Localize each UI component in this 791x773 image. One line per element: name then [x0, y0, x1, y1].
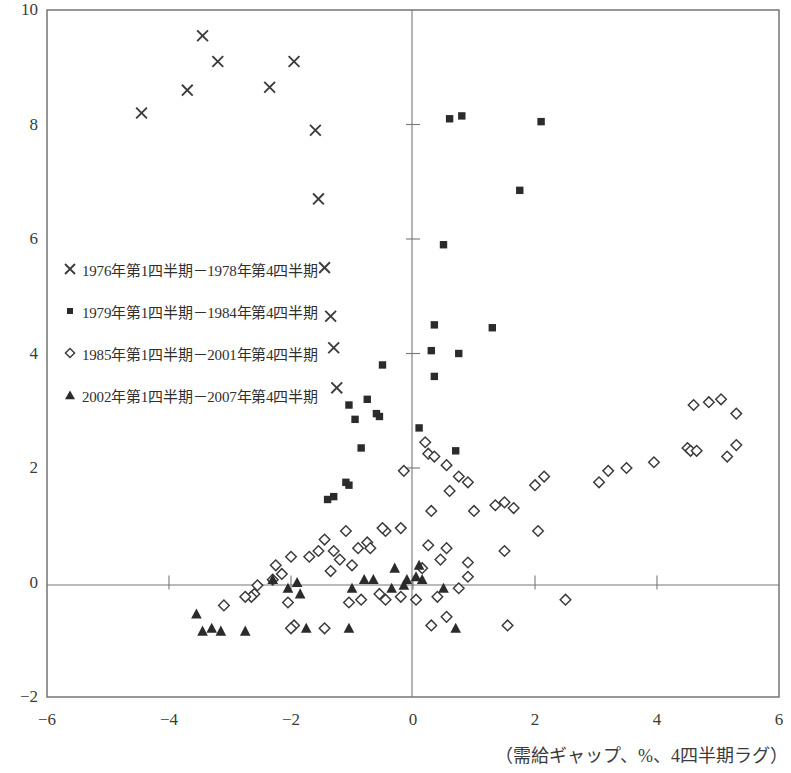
diamond-data-point [319, 534, 330, 545]
diamond-data-point [286, 551, 297, 562]
x-tick-label: 4 [653, 710, 662, 730]
diamond-data-point [270, 560, 281, 571]
square-marker-icon [58, 303, 82, 319]
square-data-point [431, 373, 438, 380]
diamond-data-point [396, 592, 407, 603]
triangle-data-point [438, 583, 449, 593]
triangle-data-point [206, 623, 217, 633]
diamond-data-point [426, 620, 437, 631]
diamond-data-point [594, 477, 605, 488]
y-tick-label: −2 [8, 687, 38, 707]
triangle-data-point [191, 608, 202, 618]
diamond-data-point [502, 620, 513, 631]
diamond-data-point [341, 526, 352, 537]
diamond-data-point [621, 463, 632, 474]
triangle-data-point [389, 563, 400, 573]
diamond-data-point [432, 592, 443, 603]
diamond-data-point [283, 597, 294, 608]
diamond-data-point [469, 506, 480, 517]
cross-marker-icon [58, 261, 82, 277]
triangle-data-point [292, 577, 303, 587]
triangle-data-point [368, 574, 379, 584]
diamond-data-point [347, 560, 358, 571]
diamond-data-point [603, 466, 614, 477]
legend-item: 1985年第1四半期－2001年第4四半期 [58, 332, 333, 374]
diamond-data-point [396, 523, 407, 534]
scatter-chart-figure: −20246810 −6−4−20246 （需給ギャップ、%、4四半期ラグ） 1… [0, 0, 791, 773]
y-tick-label: 6 [8, 229, 38, 249]
diamond-data-point [722, 451, 733, 462]
y-tick-label: 10 [8, 0, 38, 20]
legend-item: 1979年第1四半期－1984年第4四半期 [58, 290, 333, 332]
diamond-data-point [356, 594, 367, 605]
legend-label-2: 1979年第1四半期－1984年第4四半期 [82, 301, 318, 322]
chart-legend: 1976年第1四半期－1978年第4四半期 1979年第1四半期－1984年第4… [58, 248, 333, 416]
square-data-point [431, 321, 438, 328]
square-data-point [452, 447, 459, 454]
cross-data-point [136, 108, 147, 119]
triangle-data-point [450, 623, 461, 633]
triangle-data-point [240, 626, 251, 636]
square-data-point [345, 481, 352, 488]
square-data-point [351, 416, 358, 423]
diamond-data-point [441, 612, 452, 623]
triangle-data-point [295, 588, 306, 598]
y-tick-label: 8 [8, 115, 38, 135]
square-data-point [364, 396, 371, 403]
diamond-data-point [463, 571, 474, 582]
diamond-data-point [560, 594, 571, 605]
square-data-point [357, 444, 364, 451]
legend-label-1: 1976年第1四半期－1978年第4四半期 [82, 259, 318, 280]
x-axis-label: （需給ギャップ、%、4四半期ラグ） [495, 741, 788, 767]
triangle-data-point [283, 583, 294, 593]
x-tick-label: 2 [531, 710, 540, 730]
diamond-data-point [441, 460, 452, 471]
diamond-data-point [435, 554, 446, 565]
diamond-data-point [441, 543, 452, 554]
diamond-data-point [219, 600, 230, 611]
legend-item: 1976年第1四半期－1978年第4四半期 [58, 248, 333, 290]
triangle-data-point [359, 574, 370, 584]
triangle-data-point [197, 626, 208, 636]
legend-item: 2002年第1四半期－2007年第4四半期 [58, 374, 333, 416]
triangle-data-point [344, 623, 355, 633]
square-data-point [458, 112, 465, 119]
legend-label-3: 1985年第1四半期－2001年第4四半期 [82, 343, 318, 364]
diamond-data-point [277, 569, 288, 580]
square-data-point [489, 324, 496, 331]
diamond-data-point [508, 503, 519, 514]
diamond-data-point [325, 566, 336, 577]
square-data-point [537, 118, 544, 125]
diamond-data-point [444, 486, 455, 497]
cross-data-point [310, 125, 321, 136]
diamond-data-point [426, 506, 437, 517]
y-tick-label: 0 [8, 573, 38, 593]
diamond-data-point [335, 554, 346, 565]
square-data-point [516, 187, 523, 194]
diamond-data-point [533, 526, 544, 537]
diamond-data-point [420, 437, 431, 448]
square-data-point [379, 361, 386, 368]
square-data-point [428, 347, 435, 354]
y-tick-label: 2 [8, 458, 38, 478]
diamond-data-point [344, 597, 355, 608]
square-data-point [345, 401, 352, 408]
triangle-data-point [301, 623, 312, 633]
diamond-data-point [649, 457, 660, 468]
square-data-point [440, 241, 447, 248]
diamond-data-point [319, 623, 330, 634]
diamond-data-point [463, 557, 474, 568]
triangle-marker-icon [58, 387, 82, 403]
diamond-data-point [328, 546, 339, 557]
diamond-data-point [716, 394, 727, 405]
diamond-data-point [499, 546, 510, 557]
square-data-point [455, 350, 462, 357]
diamond-marker-icon [58, 345, 82, 361]
y-tick-label: 4 [8, 344, 38, 364]
diamond-data-point [423, 540, 434, 551]
diamond-data-point [399, 466, 410, 477]
cross-data-point [182, 85, 193, 96]
cross-data-point [212, 56, 223, 67]
legend-label-4: 2002年第1四半期－2007年第4四半期 [82, 385, 318, 406]
diamond-data-point [731, 440, 742, 451]
